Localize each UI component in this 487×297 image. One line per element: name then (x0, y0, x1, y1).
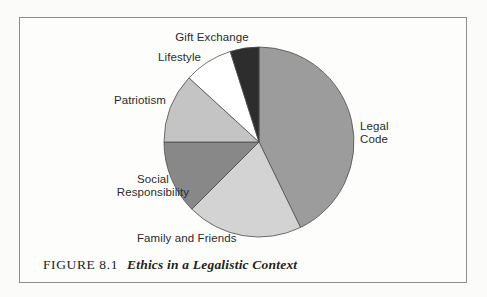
pie-label-social-responsibility: Social Responsibility (111, 173, 195, 199)
book-page: { "figure": { "caption_prefix": "FIGURE … (0, 0, 487, 297)
figure-caption: FIGURE 8.1Ethics in a Legalistic Context (43, 257, 297, 273)
figure-caption-number: FIGURE 8.1 (43, 257, 118, 272)
pie-label-patriotism: Patriotism (106, 94, 166, 107)
pie-label-gift-exchange: Gift Exchange (168, 31, 256, 44)
pie-label-lifestyle: Lifestyle (158, 51, 201, 64)
pie-label-legal-code: Legal Code (360, 120, 406, 146)
pie-chart (0, 0, 487, 297)
pie-label-family-and-friends: Family and Friends (137, 232, 237, 245)
figure-caption-title: Ethics in a Legalistic Context (127, 257, 297, 272)
